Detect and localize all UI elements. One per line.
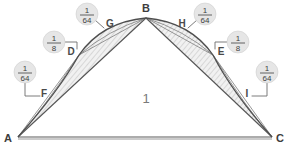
point-label-h: H [178,18,185,29]
vertex-label-c: C [276,132,284,144]
point-label-e: E [218,46,225,57]
badge-numerator-e: 1 [236,34,241,43]
badge-denominator-h: 64 [201,16,210,25]
badge-numerator-d: 1 [52,34,57,43]
badge-leader-h [188,20,197,28]
badge-numerator-i: 1 [265,64,270,73]
point-label-d: D [67,46,74,57]
vertex-label-b: B [142,2,150,14]
point-label-g: G [106,18,114,29]
badge-leader-f [25,83,40,96]
badge-denominator-g: 64 [83,16,92,25]
badge-fraction-i: 1 64 [252,61,278,96]
segment-base-ac [18,137,272,139]
diagram-canvas: 1 A B C D E F G H I 1 8 1 64 [0,0,288,161]
parabola-figure: 1 A B C D E F G H I 1 8 1 64 [0,0,288,161]
center-area-label: 1 [142,91,149,106]
badge-leader-g [95,20,104,28]
badge-denominator-f: 64 [21,74,30,83]
badge-fraction-f: 1 64 [14,61,40,96]
badge-denominator-e: 8 [236,44,241,53]
vertex-label-a: A [4,132,12,144]
badge-leader-i [252,83,267,96]
point-label-i: I [246,88,249,99]
badge-fraction-h: 1 64 [188,3,216,28]
badge-denominator-i: 64 [263,74,272,83]
badge-numerator-h: 1 [203,6,208,15]
segment-chord-bc [146,18,272,137]
segment-chord-ab [18,18,146,137]
badge-fraction-g: 1 64 [76,3,104,28]
badge-numerator-f: 1 [23,64,28,73]
point-label-f: F [41,88,47,99]
badge-numerator-g: 1 [85,6,90,15]
badge-denominator-d: 8 [52,44,57,53]
